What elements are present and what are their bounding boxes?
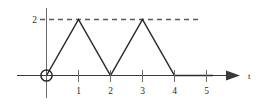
- x-tick-label-4: 4: [172, 86, 177, 96]
- t-axis-label: t: [248, 71, 251, 81]
- y-tick-label-2: 2: [32, 15, 37, 25]
- x-tick-label-5: 5: [204, 86, 209, 96]
- x-tick-label-1: 1: [76, 86, 81, 96]
- chart-canvas: 2 1 2 3 4 5 t: [0, 0, 271, 104]
- waveform-polyline: [47, 20, 213, 76]
- t-axis-arrowhead: [226, 71, 240, 81]
- triangular-waveform-figure: 2 1 2 3 4 5 t: [0, 0, 271, 104]
- x-tick-label-3: 3: [140, 86, 145, 96]
- x-tick-label-2: 2: [108, 86, 113, 96]
